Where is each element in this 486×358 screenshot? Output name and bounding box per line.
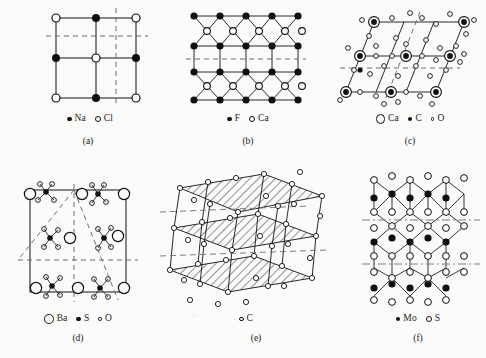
- legend-label: Na: [75, 114, 86, 124]
- open-circle-icon: [239, 317, 244, 322]
- panel-e-legend: C: [196, 314, 296, 324]
- filled-circle-icon: [67, 117, 72, 122]
- legend-label: Mo: [403, 314, 416, 324]
- legend-entry-ca: Ca: [249, 114, 269, 124]
- panel-a-halite-diagram: [44, 6, 150, 108]
- panel-b-legend: F Ca: [190, 114, 306, 124]
- filled-circle-icon: [76, 317, 81, 322]
- panel-f-molybdenite-diagram: [362, 168, 482, 310]
- panel-e-caption: (e): [196, 333, 316, 343]
- legend-label: S: [435, 314, 440, 324]
- crystal-structure-figure: Na Cl (a): [0, 0, 486, 358]
- legend-entry-f: F: [227, 114, 240, 124]
- open-circle-icon: [431, 117, 435, 121]
- legend-label: O: [105, 314, 112, 324]
- panel-f-caption: (f): [358, 333, 478, 343]
- open-circle-icon: [98, 317, 102, 321]
- panel-a-legend: Na Cl: [28, 114, 152, 124]
- legend-entry-s: S: [76, 314, 89, 324]
- panel-c-caption: (c): [350, 136, 470, 146]
- legend-label: C: [247, 314, 253, 324]
- legend-label: Ca: [388, 114, 399, 124]
- legend-entry-cl: Cl: [95, 114, 113, 124]
- panel-d-barite-diagram: [14, 176, 142, 308]
- panel-c-legend: Ca C O: [344, 114, 476, 124]
- open-circle-icon: [249, 116, 255, 122]
- legend-entry-o: O: [431, 114, 445, 124]
- open-circle-icon: [376, 114, 386, 124]
- legend-label: F: [235, 114, 240, 124]
- legend-label: S: [84, 314, 89, 324]
- legend-label: C: [415, 114, 421, 124]
- panel-d-legend: Ba S O: [12, 314, 144, 324]
- legend-entry-s: S: [426, 314, 440, 324]
- legend-entry-ca: Ca: [376, 114, 399, 124]
- panel-c-calcite-diagram: [336, 4, 482, 108]
- filled-circle-icon: [227, 117, 232, 122]
- panel-a-caption: (a): [28, 136, 148, 146]
- legend-entry-na: Na: [67, 114, 86, 124]
- legend-entry-o: O: [98, 314, 112, 324]
- open-circle-icon: [95, 116, 101, 122]
- panel-b-fluorite-diagram: [186, 6, 306, 108]
- panel-e-graphite-diagram: [160, 166, 332, 312]
- legend-entry-c: C: [408, 114, 422, 124]
- legend-entry-mo: Mo: [396, 314, 417, 324]
- legend-label: Ba: [57, 314, 68, 324]
- filled-circle-icon: [396, 317, 401, 322]
- legend-label: Ca: [258, 114, 269, 124]
- legend-entry-ba: Ba: [44, 314, 67, 324]
- legend-label: Cl: [104, 114, 113, 124]
- panel-b-caption: (b): [188, 136, 308, 146]
- legend-label: O: [437, 114, 444, 124]
- filled-circle-icon: [408, 117, 413, 122]
- open-circle-icon: [426, 316, 432, 322]
- legend-entry-c: C: [239, 314, 253, 324]
- open-circle-icon: [44, 314, 54, 324]
- panel-d-caption: (d): [18, 333, 138, 343]
- panel-f-legend: Mo S: [362, 314, 474, 324]
